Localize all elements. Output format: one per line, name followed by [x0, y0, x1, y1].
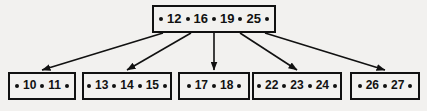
- node-key: 24: [316, 79, 329, 93]
- node-key: 19: [220, 12, 234, 26]
- node-cells: 2627: [355, 79, 416, 93]
- pointer-dot-icon: [186, 17, 190, 21]
- node-key: 16: [194, 12, 208, 26]
- node-key: 26: [366, 79, 379, 93]
- leaf-node-4: 222324: [252, 72, 342, 100]
- pointer-dot-icon: [65, 84, 69, 88]
- pointer-dot-icon: [383, 84, 387, 88]
- node-key: 15: [146, 79, 159, 93]
- pointer-dot-icon: [308, 84, 312, 88]
- node-key: 23: [290, 79, 303, 93]
- leaf-node-3: 1718: [178, 72, 250, 100]
- leaf-node-1: 1011: [8, 72, 76, 100]
- root-node: 12161925: [152, 5, 276, 33]
- pointer-dot-icon: [40, 84, 44, 88]
- pointer-dot-icon: [212, 17, 216, 21]
- leaf-node-5: 2627: [350, 72, 420, 100]
- node-cells: 131415: [84, 79, 170, 93]
- pointer-dot-icon: [112, 84, 116, 88]
- pointer-dot-icon: [187, 84, 191, 88]
- pointer-dot-icon: [408, 84, 412, 88]
- node-key: 17: [195, 79, 208, 93]
- pointer-dot-icon: [15, 84, 19, 88]
- node-cells: 222324: [254, 79, 340, 93]
- pointer-dot-icon: [257, 84, 261, 88]
- node-key: 27: [391, 79, 404, 93]
- node-cells: 1011: [12, 79, 72, 93]
- node-key: 10: [23, 79, 36, 93]
- pointer-dot-icon: [265, 17, 269, 21]
- pointer-dot-icon: [282, 84, 286, 88]
- node-key: 12: [167, 12, 181, 26]
- tree-edges: [42, 33, 385, 70]
- node-key: 22: [265, 79, 278, 93]
- pointer-dot-icon: [238, 17, 242, 21]
- edge-root-to-leaf-4: [240, 33, 297, 70]
- node-key: 11: [48, 79, 61, 93]
- node-key: 14: [120, 79, 133, 93]
- pointer-dot-icon: [159, 17, 163, 21]
- pointer-dot-icon: [163, 84, 167, 88]
- edge-root-to-leaf-1: [42, 33, 163, 70]
- node-key: 25: [246, 12, 260, 26]
- edge-root-to-leaf-2: [127, 33, 191, 70]
- pointer-dot-icon: [87, 84, 91, 88]
- pointer-dot-icon: [212, 84, 216, 88]
- node-cells: 12161925: [156, 12, 272, 26]
- edge-root-to-leaf-5: [265, 33, 385, 70]
- pointer-dot-icon: [138, 84, 142, 88]
- node-key: 13: [95, 79, 108, 93]
- pointer-dot-icon: [358, 84, 362, 88]
- leaf-node-2: 131415: [82, 72, 172, 100]
- node-key: 18: [220, 79, 233, 93]
- btree-diagram: 12161925101113141517182223242627: [0, 0, 427, 111]
- node-cells: 1718: [184, 79, 245, 93]
- pointer-dot-icon: [333, 84, 337, 88]
- pointer-dot-icon: [237, 84, 241, 88]
